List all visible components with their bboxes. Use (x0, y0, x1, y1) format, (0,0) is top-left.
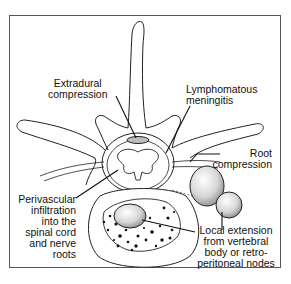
extradural-deposit (127, 137, 149, 144)
leader-extradural (116, 96, 136, 138)
label-local-extension: Local extension from vertebral body or r… (192, 225, 280, 269)
spinous-process (128, 22, 146, 129)
label-lymphomatous-meningitis: Lymphomatous meningitis (186, 84, 257, 106)
left-lamina (95, 115, 128, 150)
label-root-compression: Root compression (206, 148, 272, 170)
retroperitoneal-node-2 (216, 192, 242, 218)
label-extradural-compression: Extradural compression (48, 78, 108, 100)
leader-lymphomatous (166, 106, 190, 153)
vertebral-mass (114, 204, 146, 228)
right-lamina (146, 115, 181, 148)
label-perivascular-infiltration: Perivascular infiltration into the spina… (8, 194, 76, 260)
spinal-cord-grey-matter (118, 149, 159, 180)
